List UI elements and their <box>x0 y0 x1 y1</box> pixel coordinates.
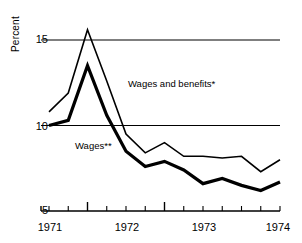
series-line-wages <box>49 66 280 191</box>
wages-and-benefits-line-chart: Percent 15 10 5 1971 1972 1973 1974 Wage… <box>0 0 302 243</box>
plot-area <box>0 0 302 243</box>
series-line-wages-and-benefits <box>49 30 280 172</box>
